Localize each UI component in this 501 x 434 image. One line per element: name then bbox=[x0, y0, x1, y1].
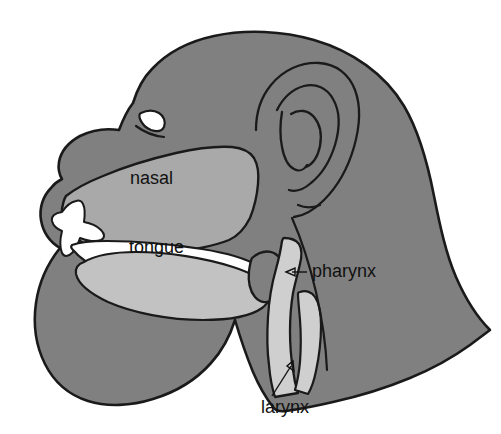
label-tongue: tongue bbox=[129, 237, 184, 257]
label-pharynx: pharynx bbox=[312, 261, 376, 281]
anatomy-figure: nasal tongue pharynx larynx bbox=[0, 0, 501, 434]
anatomy-diagram-canvas: nasal tongue pharynx larynx bbox=[0, 0, 501, 434]
label-larynx: larynx bbox=[261, 397, 309, 417]
label-nasal: nasal bbox=[130, 168, 173, 188]
